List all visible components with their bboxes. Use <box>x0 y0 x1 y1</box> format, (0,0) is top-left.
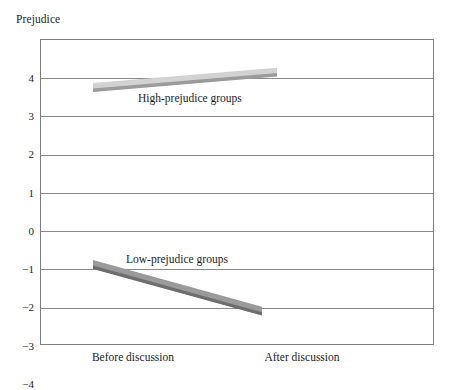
y-tick-label-1: 1 <box>4 188 34 199</box>
gridline-3 <box>41 78 433 79</box>
gridline-2 <box>41 116 433 117</box>
y-tick-label-neg1: −1 <box>4 264 34 275</box>
series-label-low-prejudice: Low-prejudice groups <box>126 252 228 266</box>
gridline-neg3 <box>41 308 433 309</box>
gridline-0 <box>41 193 433 194</box>
y-axis-title: Prejudice <box>16 12 60 26</box>
x-tick-label-before: Before discussion <box>92 350 174 364</box>
y-tick-label-neg3: −3 <box>4 341 34 352</box>
y-tick-label-3: 3 <box>4 111 34 122</box>
y-tick-label-neg4: −4 <box>4 379 34 390</box>
gridline-neg1 <box>41 231 433 232</box>
y-axis-tick-labels: 4 3 2 1 0 −1 −2 −3 −4 <box>0 39 34 345</box>
x-axis-tick-labels: Before discussion After discussion <box>40 350 434 370</box>
x-tick-label-after: After discussion <box>264 350 339 364</box>
y-tick-label-4: 4 <box>4 73 34 84</box>
gridline-neg2 <box>41 269 433 270</box>
series-label-high-prejudice: High-prejudice groups <box>138 91 242 105</box>
plot-area <box>40 39 434 345</box>
y-tick-label-0: 0 <box>4 226 34 237</box>
gridline-1 <box>41 155 433 156</box>
y-tick-label-2: 2 <box>4 149 34 160</box>
y-tick-label-neg2: −2 <box>4 302 34 313</box>
